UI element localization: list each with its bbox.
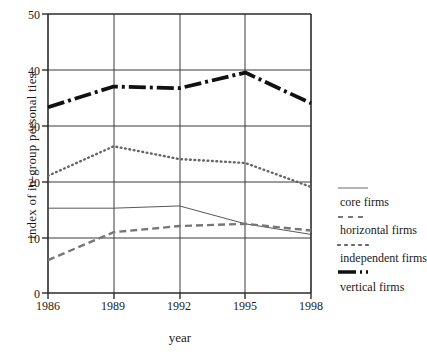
legend-label-horizontal-firms: horizontal firms — [340, 224, 417, 237]
legend-label-core-firms: core firms — [340, 196, 389, 209]
grid-lines — [48, 14, 311, 293]
x-tick-marks — [48, 293, 311, 299]
legend-label-independent-firms: independent firms — [340, 252, 427, 265]
y-tick-marks — [42, 14, 48, 293]
legend-label-vertical-firms: vertical firms — [340, 281, 404, 294]
